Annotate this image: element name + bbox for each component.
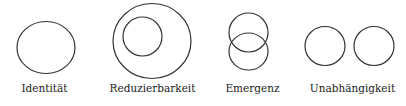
reducibility-outer-circle [113,4,191,79]
label-reducibility: Reduzierbarkeit [110,82,197,94]
set-relation-diagram: Identität Reduzierbarkeit Emergenz Unabh… [0,0,406,106]
independence-left-circle [305,27,345,66]
label-independence: Unabhängigkeit [310,82,396,94]
reducibility-inner-circle [123,17,162,56]
panel-reducibility: Reduzierbarkeit [110,4,197,95]
panel-independence: Unabhängigkeit [305,27,396,95]
panel-identity: Identität [17,22,75,95]
label-identity: Identität [21,82,68,94]
panel-emergence: Emergenz [225,13,280,94]
identity-circle [17,22,75,74]
label-emergence: Emergenz [225,82,280,94]
independence-right-circle [354,27,394,66]
